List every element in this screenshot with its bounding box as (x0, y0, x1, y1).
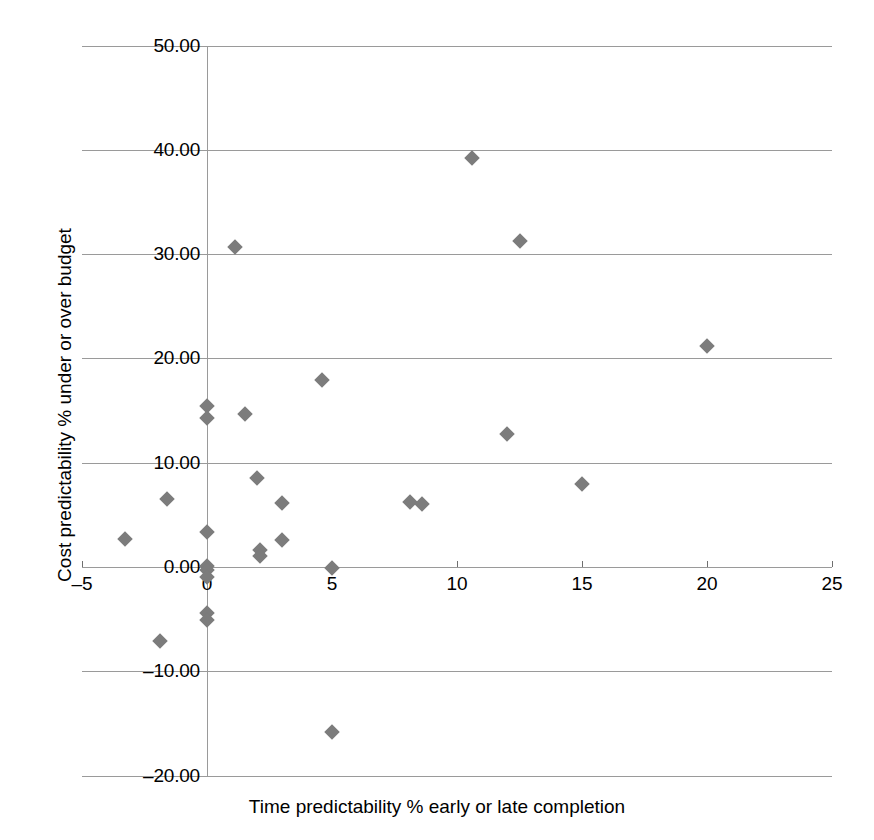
x-tick-label: 5 (292, 574, 372, 593)
x-tick-mark (82, 561, 83, 567)
x-tick-label: 20 (667, 574, 747, 593)
y-tick-label: 10.00 (80, 453, 200, 472)
data-point-marker (159, 491, 175, 507)
data-point-marker (227, 239, 243, 255)
data-point-marker (414, 497, 430, 513)
x-tick-mark (832, 561, 833, 567)
x-tick-mark (707, 561, 708, 567)
plot-area: –20.00–10.000.0010.0020.0030.0040.0050.0… (0, 0, 874, 840)
data-point-marker (512, 233, 528, 249)
data-point-marker (499, 426, 515, 442)
data-point-marker (199, 524, 215, 540)
x-tick-label: 15 (542, 574, 622, 593)
data-point-marker (574, 476, 590, 492)
scatter-chart: –20.00–10.000.0010.0020.0030.0040.0050.0… (0, 0, 874, 840)
x-axis-title: Time predictability % early or late comp… (0, 796, 874, 818)
x-tick-label: 10 (417, 574, 497, 593)
data-point-marker (237, 406, 253, 422)
y-axis-title: Cost predictability % under or over budg… (54, 55, 76, 755)
data-point-marker (199, 410, 215, 426)
data-point-marker (699, 338, 715, 354)
x-tick-label: 25 (792, 574, 872, 593)
data-point-marker (464, 150, 480, 166)
y-tick-label: 40.00 (80, 140, 200, 159)
data-point-marker (274, 496, 290, 512)
y-tick-label: 50.00 (80, 36, 200, 55)
data-point-marker (249, 471, 265, 487)
data-point-marker (274, 532, 290, 548)
data-point-marker (314, 373, 330, 389)
data-point-marker (152, 633, 168, 649)
y-tick-label: 30.00 (80, 244, 200, 263)
data-point-marker (324, 724, 340, 740)
y-tick-label: –10.00 (80, 661, 200, 680)
y-tick-label: –20.00 (80, 766, 200, 785)
data-point-marker (117, 531, 133, 547)
x-tick-mark (582, 561, 583, 567)
y-tick-label: 20.00 (80, 348, 200, 367)
x-tick-mark (457, 561, 458, 567)
